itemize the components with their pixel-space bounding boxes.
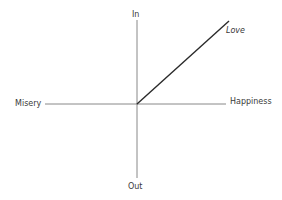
line-label-love: Love bbox=[226, 26, 245, 36]
axis-label-misery: Misery bbox=[15, 99, 41, 109]
axis-label-out: Out bbox=[128, 182, 143, 192]
love-line bbox=[137, 21, 229, 104]
axis-label-happiness: Happiness bbox=[230, 97, 272, 107]
axis-label-in: In bbox=[132, 10, 139, 20]
